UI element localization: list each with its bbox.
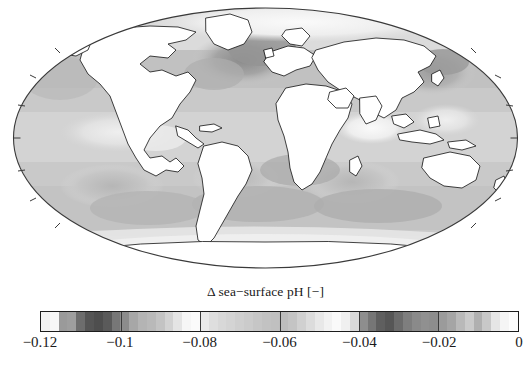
colorbar-segment-28 bbox=[288, 312, 297, 331]
colorbar-segment-25 bbox=[262, 312, 271, 331]
colorbar-segment-47 bbox=[456, 312, 465, 331]
anomaly-southern-ocean-indian bbox=[314, 189, 442, 223]
colorbar-segment-37 bbox=[368, 312, 377, 331]
colorbar-segment-30 bbox=[306, 312, 315, 331]
colorbar[interactable] bbox=[40, 311, 519, 332]
land-philippines bbox=[428, 116, 440, 128]
colorbar-segment-21 bbox=[226, 312, 235, 331]
colorbar-segment-51 bbox=[491, 312, 500, 331]
colorbar-segment-9 bbox=[120, 312, 129, 331]
colorbar-segment-38 bbox=[376, 312, 385, 331]
colorbar-segment-22 bbox=[235, 312, 244, 331]
colorbar-segment-18 bbox=[200, 312, 209, 331]
colorbar-segment-40 bbox=[394, 312, 403, 331]
colorbar-tick-label-6: 0 bbox=[515, 334, 523, 351]
colorbar-segment-17 bbox=[191, 312, 200, 331]
colorbar-segment-29 bbox=[297, 312, 306, 331]
colorbar-segment-6 bbox=[94, 312, 103, 331]
anomaly-southern-ocean-pacific bbox=[90, 191, 206, 225]
colorbar-segment-35 bbox=[350, 312, 359, 331]
colorbar-segment-12 bbox=[147, 312, 156, 331]
colorbar-gradient-strip bbox=[41, 312, 518, 331]
colorbar-tick-label-4: −0.04 bbox=[342, 334, 377, 351]
colorbar-segment-26 bbox=[271, 312, 280, 331]
colorbar-segment-19 bbox=[209, 312, 218, 331]
colorbar-segment-41 bbox=[403, 312, 412, 331]
colorbar-segment-8 bbox=[112, 312, 121, 331]
colorbar-segment-52 bbox=[500, 312, 509, 331]
colorbar-segment-7 bbox=[103, 312, 112, 331]
colorbar-segment-45 bbox=[438, 312, 447, 331]
colorbar-segment-50 bbox=[482, 312, 491, 331]
colorbar-segment-48 bbox=[465, 312, 474, 331]
colorbar-segment-13 bbox=[156, 312, 165, 331]
colorbar-block: Δ sea−surface pH [−] −0.12−0.1−0.08−0.06… bbox=[0, 282, 531, 365]
colorbar-tick-label-1: −0.1 bbox=[106, 334, 133, 351]
figure-root: Δ sea−surface pH [−] −0.12−0.1−0.08−0.06… bbox=[0, 0, 531, 365]
colorbar-segment-0 bbox=[41, 312, 50, 331]
colorbar-tick-labels: −0.12−0.1−0.08−0.06−0.04−0.020 bbox=[0, 334, 531, 358]
colorbar-segment-23 bbox=[244, 312, 253, 331]
colorbar-segment-46 bbox=[447, 312, 456, 331]
colorbar-segment-43 bbox=[421, 312, 430, 331]
colorbar-segment-32 bbox=[324, 312, 333, 331]
colorbar-tick-label-5: −0.02 bbox=[422, 334, 457, 351]
colorbar-segment-15 bbox=[173, 312, 182, 331]
colorbar-segment-16 bbox=[182, 312, 191, 331]
colorbar-segment-11 bbox=[138, 312, 147, 331]
land-antarctica bbox=[18, 241, 514, 274]
map-panel bbox=[0, 0, 531, 278]
colorbar-segment-5 bbox=[85, 312, 94, 331]
colorbar-segment-3 bbox=[67, 312, 76, 331]
colorbar-segment-10 bbox=[129, 312, 138, 331]
colorbar-tick-label-2: −0.08 bbox=[182, 334, 217, 351]
colorbar-tick-label-0: −0.12 bbox=[23, 334, 58, 351]
colorbar-segment-20 bbox=[218, 312, 227, 331]
colorbar-segment-33 bbox=[332, 312, 341, 331]
colorbar-segment-31 bbox=[315, 312, 324, 331]
colorbar-segment-24 bbox=[253, 312, 262, 331]
colorbar-segment-39 bbox=[385, 312, 394, 331]
colorbar-segment-1 bbox=[50, 312, 59, 331]
ocean-field bbox=[0, 2, 531, 270]
colorbar-segment-49 bbox=[474, 312, 483, 331]
colorbar-segment-44 bbox=[429, 312, 438, 331]
colorbar-segment-36 bbox=[359, 312, 368, 331]
colorbar-segment-4 bbox=[76, 312, 85, 331]
colorbar-tick-label-3: −0.06 bbox=[262, 334, 297, 351]
colorbar-segment-42 bbox=[412, 312, 421, 331]
colorbar-title: Δ sea−surface pH [−] bbox=[0, 284, 531, 300]
global-map bbox=[0, 0, 531, 278]
colorbar-segment-27 bbox=[279, 312, 288, 331]
colorbar-segment-14 bbox=[165, 312, 174, 331]
land-british-isles bbox=[264, 48, 274, 58]
colorbar-segment-53 bbox=[509, 312, 518, 331]
colorbar-segment-2 bbox=[59, 312, 68, 331]
colorbar-segment-34 bbox=[341, 312, 350, 331]
